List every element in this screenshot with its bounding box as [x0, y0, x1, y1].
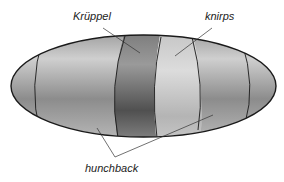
embryo-bands [0, 30, 284, 145]
band-hunchback-anterior [35, 30, 125, 145]
label-kruppel: Krüppel [73, 11, 111, 22]
band-posterior-cap [242, 30, 284, 145]
label-knirps: knirps [205, 11, 234, 22]
embryo-svg [0, 0, 284, 182]
label-hunchback: hunchback [85, 163, 138, 174]
embryo-diagram: Krüppel knirps hunchback [0, 0, 284, 182]
